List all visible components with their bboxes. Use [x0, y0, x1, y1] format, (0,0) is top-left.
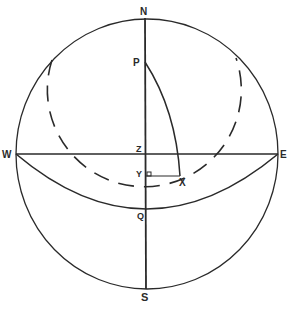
equator-arc-wqe — [16, 154, 278, 209]
celestial-sphere-diagram: N P Z Y X W E Q S — [0, 0, 292, 315]
label-x: X — [179, 177, 186, 188]
label-e: E — [280, 149, 287, 160]
label-w: W — [2, 149, 12, 160]
label-p: P — [133, 57, 140, 68]
label-q: Q — [137, 211, 144, 221]
label-y: Y — [136, 169, 142, 179]
hour-circle-px — [145, 62, 180, 176]
label-s: S — [141, 291, 148, 303]
label-n: N — [140, 6, 147, 17]
label-z: Z — [136, 144, 142, 154]
